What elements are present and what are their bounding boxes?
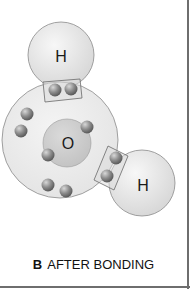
water-molecule-diagram: H O H	[0, 0, 190, 289]
inner-electron	[42, 149, 55, 162]
shared-electron	[101, 170, 114, 183]
caption-letter: B	[33, 257, 42, 272]
shared-electron	[49, 84, 62, 97]
caption-text: AFTER BONDING	[47, 257, 154, 272]
outer-electron	[60, 185, 73, 198]
shared-electron	[65, 83, 78, 96]
oxygen-label: O	[62, 135, 74, 152]
shared-electron	[110, 152, 123, 165]
hydrogen-label-right: H	[137, 177, 149, 194]
frame-border-bottom	[0, 286, 190, 288]
hydrogen-label-top: H	[55, 48, 67, 65]
inner-electron	[81, 121, 94, 134]
outer-electron	[42, 179, 55, 192]
figure-caption: BAFTER BONDING	[0, 257, 187, 272]
figure-panel: H O H BAFTER BONDING	[0, 0, 190, 289]
frame-border-right	[187, 0, 189, 289]
outer-electron	[15, 125, 28, 138]
outer-electron	[21, 108, 34, 121]
